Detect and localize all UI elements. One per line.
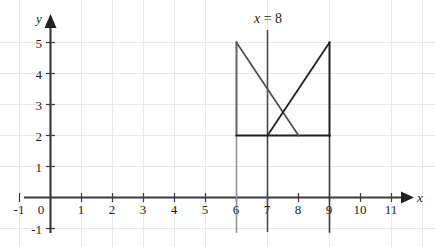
y-tick-label--1: -1: [31, 223, 42, 236]
x-tick-label-1: 1: [78, 203, 85, 216]
x-tick-label-11: 11: [385, 203, 398, 216]
symmetry-line-label-value: 8: [275, 11, 282, 26]
y-axis-arrowhead: [45, 14, 57, 28]
x-tick-label-8: 8: [295, 203, 302, 216]
x-tick-label-10: 10: [354, 203, 367, 216]
axes: [24, 14, 414, 233]
x-tick-label-7: 7: [264, 203, 271, 216]
coordinate-graph-figure: -1 1 2 3 4 5 6 7 8 9 10 11 0 5 4 3 2 1 -…: [0, 0, 435, 247]
grid-horizontal-lines: [0, 43, 435, 229]
shape-outline: [237, 43, 330, 233]
origin-label: 0: [38, 203, 45, 216]
y-tick-label-4: 4: [36, 68, 43, 81]
symmetry-line-label: x = 8: [254, 12, 282, 26]
y-tick-label-5: 5: [36, 37, 43, 50]
y-tick-label-1: 1: [36, 161, 43, 174]
y-axis-name: y: [36, 12, 42, 25]
segment-diagonal-up-right: [268, 43, 330, 136]
plot-canvas: [0, 0, 435, 247]
x-tick-label-4: 4: [171, 203, 178, 216]
x-axis-name: x: [417, 191, 423, 204]
x-axis-arrowhead: [401, 192, 414, 204]
x-tick-label--1: -1: [14, 203, 25, 216]
x-tick-label-3: 3: [140, 203, 147, 216]
x-tick-label-9: 9: [326, 203, 333, 216]
x-tick-label-2: 2: [109, 203, 116, 216]
grid-lines: [0, 0, 435, 247]
symmetry-line-label-equals: =: [260, 11, 275, 26]
x-tick-label-5: 5: [202, 203, 209, 216]
y-tick-label-3: 3: [36, 99, 43, 112]
x-tick-label-6: 6: [233, 203, 240, 216]
y-tick-label-2: 2: [36, 130, 43, 143]
